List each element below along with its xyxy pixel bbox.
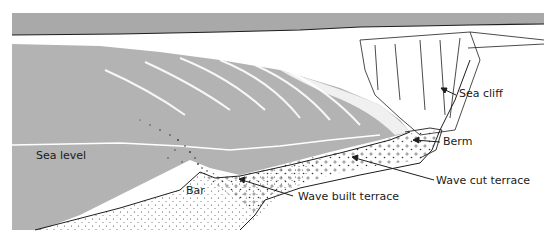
label-sea-level: Sea level xyxy=(36,150,86,161)
coastal-diagram: Sea cliff Berm Sea level Bar Wave cut te… xyxy=(0,0,554,245)
label-wave-built-terrace: Wave built terrace xyxy=(298,191,399,202)
label-bar: Bar xyxy=(186,185,205,196)
diagram-illustration xyxy=(0,0,554,245)
label-wave-cut-terrace: Wave cut terrace xyxy=(436,175,530,186)
label-berm: Berm xyxy=(443,136,472,147)
label-sea-cliff: Sea cliff xyxy=(459,88,503,99)
